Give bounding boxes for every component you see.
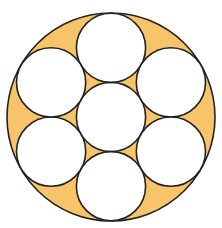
inner-circle-top <box>76 13 145 82</box>
inner-circle-lower-left <box>17 117 86 186</box>
circle-packing-diagram <box>0 0 222 228</box>
inner-circle-center <box>76 82 145 151</box>
inner-circle-lower-right <box>136 117 205 186</box>
inner-circle-bottom <box>76 152 145 221</box>
inner-circle-upper-right <box>136 48 205 117</box>
diagram-svg <box>0 0 222 228</box>
inner-circle-upper-left <box>17 48 86 117</box>
